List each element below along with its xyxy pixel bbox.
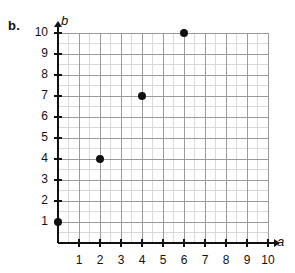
y-tick-label: 5 bbox=[26, 130, 48, 144]
y-tick-label: 8 bbox=[26, 67, 48, 81]
x-axis-arrowhead bbox=[274, 239, 280, 247]
scatter-plot-figure: b. b a 12345678910 12345678910 bbox=[0, 0, 295, 273]
axes bbox=[54, 21, 280, 247]
x-tick-label: 10 bbox=[257, 253, 279, 267]
y-tick-label: 6 bbox=[26, 109, 48, 123]
data-point bbox=[96, 155, 104, 163]
x-tick-label: 3 bbox=[110, 253, 132, 267]
y-tick-label: 10 bbox=[26, 25, 48, 39]
y-tick-label: 9 bbox=[26, 46, 48, 60]
data-point bbox=[54, 218, 62, 226]
y-tick-label: 1 bbox=[26, 214, 48, 228]
x-tick-label: 4 bbox=[131, 253, 153, 267]
y-axis-arrowhead bbox=[54, 21, 62, 27]
y-tick-label: 3 bbox=[26, 172, 48, 186]
x-tick-label: 6 bbox=[173, 253, 195, 267]
data-point bbox=[138, 92, 146, 100]
y-tick-label: 2 bbox=[26, 193, 48, 207]
x-tick-label: 7 bbox=[194, 253, 216, 267]
x-tick-label: 9 bbox=[236, 253, 258, 267]
axis-ticks bbox=[54, 33, 268, 247]
data-point bbox=[180, 29, 188, 37]
x-tick-label: 5 bbox=[152, 253, 174, 267]
x-tick-label: 1 bbox=[68, 253, 90, 267]
x-tick-label: 8 bbox=[215, 253, 237, 267]
y-tick-label: 7 bbox=[26, 88, 48, 102]
x-tick-label: 2 bbox=[89, 253, 111, 267]
y-tick-label: 4 bbox=[26, 151, 48, 165]
